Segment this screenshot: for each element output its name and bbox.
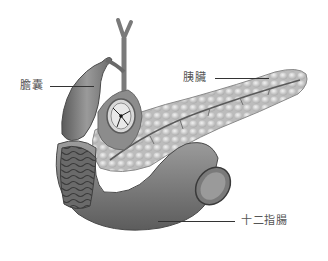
- gallbladder-label: 膽囊: [20, 80, 43, 92]
- anatomy-diagram: 膽囊 胰臟 十二指腸: [0, 0, 328, 261]
- duct-cross-section: [107, 99, 135, 133]
- duodenum-leader-line: [158, 221, 235, 222]
- gallbladder-leader-line: [50, 86, 94, 87]
- duodenum-label: 十二指腸: [241, 215, 287, 227]
- pancreas-leader-line: [215, 78, 269, 79]
- pancreas-label: 胰臟: [183, 72, 206, 84]
